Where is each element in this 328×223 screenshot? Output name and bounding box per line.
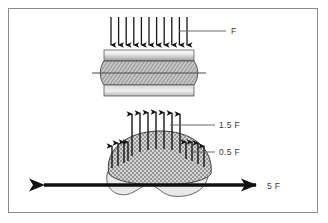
- label-5-F: 5 F: [267, 181, 280, 191]
- bottom-platen: [104, 85, 194, 96]
- upper-figure: [92, 17, 226, 96]
- label-F: F: [231, 26, 237, 36]
- load-arrows-F: [111, 17, 187, 45]
- top-platen: [104, 50, 194, 61]
- label-1-5-F: 1.5 F: [219, 120, 240, 130]
- figure-canvas: F 1.5 F 0.5 F 5 F: [0, 0, 328, 223]
- label-0-5-F: 0.5 F: [219, 147, 240, 157]
- figure-root: F 1.5 F 0.5 F 5 F: [0, 0, 328, 223]
